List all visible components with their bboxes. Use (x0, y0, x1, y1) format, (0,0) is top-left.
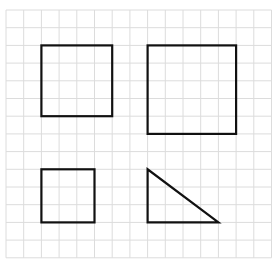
square-small-bottom-left (41, 169, 94, 222)
square-large-top-right (148, 45, 237, 133)
grid-diagram (0, 0, 276, 268)
